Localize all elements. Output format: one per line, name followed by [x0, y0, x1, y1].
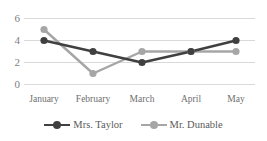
- data-point-taylor-may: [232, 37, 239, 44]
- legend-label-mr-dunable: Mr. Dunable: [170, 119, 223, 130]
- legend-marker-icon-mrs-taylor: [44, 120, 70, 130]
- x-axis-tick-label-may: May: [227, 94, 244, 105]
- legend-marker-icon-mr-dunable: [141, 120, 167, 130]
- data-point-dunable-february: [89, 70, 96, 77]
- data-point-dunable-january: [40, 26, 47, 33]
- x-axis-tick-label-april: April: [181, 94, 201, 105]
- data-point-taylor-january: [40, 37, 47, 44]
- legend-item-mr-dunable[interactable]: Mr. Dunable: [141, 119, 223, 130]
- chart-legend: Mrs. Taylor Mr. Dunable: [0, 119, 267, 130]
- x-axis-tick-label-february: February: [76, 94, 110, 105]
- data-point-dunable-march: [138, 48, 145, 55]
- x-axis-tick-label-march: March: [130, 94, 155, 105]
- data-point-taylor-april: [187, 48, 194, 55]
- data-point-dunable-may: [232, 48, 239, 55]
- legend-item-mrs-taylor[interactable]: Mrs. Taylor: [44, 119, 122, 130]
- x-axis-tick-label-january: January: [29, 94, 59, 105]
- data-point-taylor-march: [138, 59, 145, 66]
- line-chart: 6 4 2 0: [0, 0, 267, 141]
- legend-label-mrs-taylor: Mrs. Taylor: [73, 119, 122, 130]
- data-point-taylor-february: [89, 48, 96, 55]
